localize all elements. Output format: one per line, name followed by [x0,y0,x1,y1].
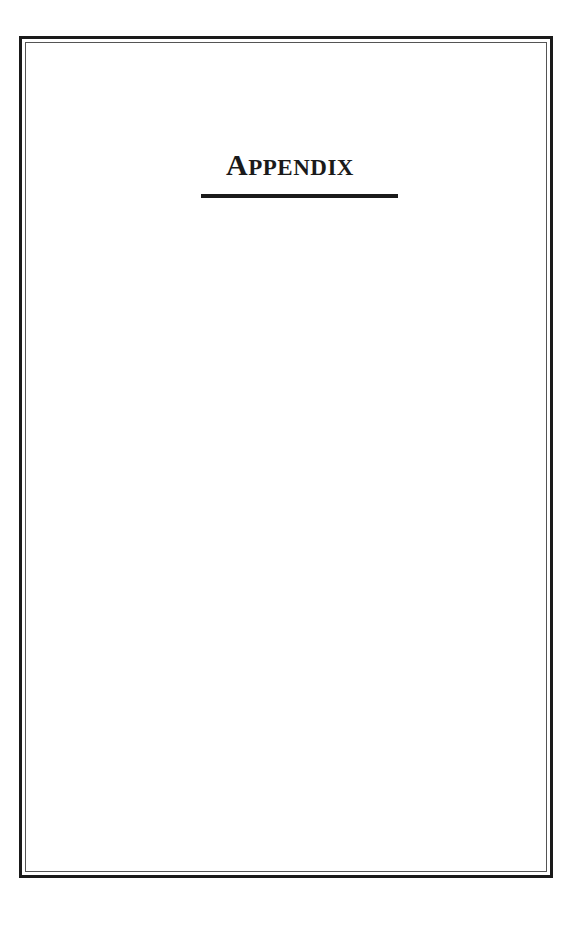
page-title: APPENDIX [0,150,580,180]
page-title-initial: A [226,148,248,181]
title-underline [201,194,398,198]
page-title-rest: PPENDIX [248,155,354,180]
